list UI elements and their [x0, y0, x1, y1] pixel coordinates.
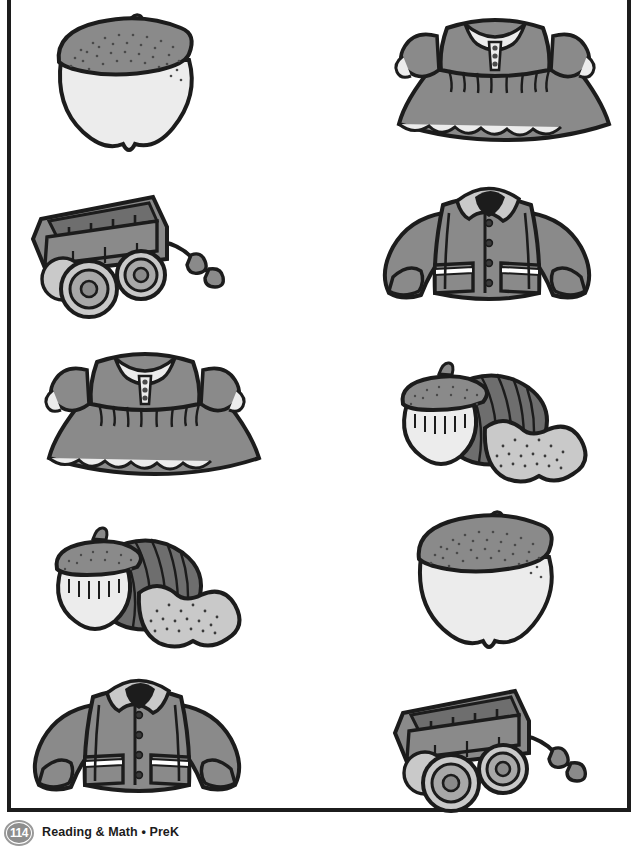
nuts-icon [21, 495, 271, 655]
picture-cell-wagon-right[interactable] [367, 655, 617, 815]
footer-title: Reading & Math • PreK [42, 825, 179, 839]
picture-cell-dress-left[interactable] [21, 330, 271, 490]
picture-cell-dress-right[interactable] [367, 0, 617, 160]
coat-icon [367, 165, 617, 325]
page-number: 114 [4, 820, 34, 846]
nuts-icon [367, 330, 617, 490]
acorn-icon [367, 495, 617, 655]
picture-cell-nuts-right[interactable] [367, 330, 617, 490]
worksheet-row [11, 330, 627, 490]
picture-cell-acorn-left[interactable] [21, 0, 271, 160]
picture-cell-coat-right[interactable] [367, 165, 617, 325]
page-footer: 114 Reading & Math • PreK [0, 818, 643, 850]
worksheet-row [11, 495, 627, 655]
picture-cell-acorn-right[interactable] [367, 495, 617, 655]
wagon-icon [367, 655, 617, 815]
picture-cell-coat-left[interactable] [21, 655, 271, 815]
page-number-badge: 114 [4, 820, 34, 846]
picture-cell-wagon-left[interactable] [21, 165, 271, 325]
worksheet-matching-grid [11, 0, 627, 806]
acorn-icon [21, 0, 271, 160]
worksheet-row [11, 655, 627, 815]
dress-icon [367, 0, 617, 160]
coat-icon [21, 655, 271, 815]
picture-cell-nuts-left[interactable] [21, 495, 271, 655]
worksheet-row [11, 165, 627, 325]
dress-icon [21, 330, 271, 490]
wagon-icon [21, 165, 271, 325]
worksheet-row [11, 0, 627, 160]
